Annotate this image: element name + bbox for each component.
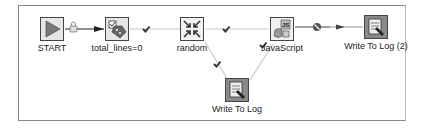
node-write-to-log-2[interactable]: Write To Log (2) bbox=[336, 15, 416, 51]
node-label: random bbox=[152, 43, 232, 53]
node-label: JavaScript bbox=[242, 43, 322, 53]
svg-text:JS: JS bbox=[282, 22, 289, 28]
shrink-arrows-icon bbox=[180, 17, 204, 41]
write-log-icon bbox=[364, 15, 388, 39]
node-label: Write To Log bbox=[197, 104, 277, 114]
set-variable-icon bbox=[105, 17, 129, 41]
node-label: Write To Log (2) bbox=[336, 41, 416, 51]
write-log-icon bbox=[225, 78, 249, 102]
node-random[interactable]: random bbox=[152, 17, 232, 53]
node-label: total_lines=0 bbox=[77, 43, 157, 53]
node-write-to-log[interactable]: Write To Log bbox=[197, 78, 277, 114]
javascript-icon: JS bbox=[270, 17, 294, 41]
play-icon bbox=[40, 17, 64, 41]
node-set-variables[interactable]: total_lines=0 bbox=[77, 17, 157, 53]
node-javascript[interactable]: JS JavaScript bbox=[242, 17, 322, 53]
